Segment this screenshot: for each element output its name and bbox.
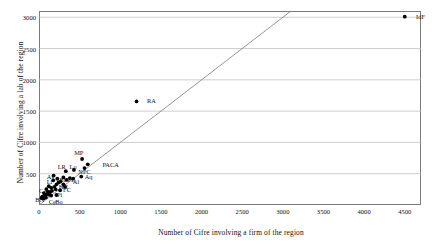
data-point-label: LR: [58, 164, 66, 170]
data-point-marker: [50, 189, 54, 193]
x-tick-label: 4500: [398, 208, 411, 215]
data-point-label: IdF: [416, 13, 425, 19]
plot-area: IdFRAMPPACANPCLoLRAqAlBrPLAsLiHNFCPiCACe…: [39, 11, 421, 205]
y-tick-label: 2000: [2, 76, 36, 83]
x-tick-label: 1000: [114, 208, 127, 215]
data-point-marker: [403, 15, 407, 19]
x-axis-title: Number of Cifre involving a firm of the …: [40, 228, 422, 237]
data-point-label: Aq: [85, 174, 93, 180]
data-point-label: Li: [47, 179, 53, 185]
x-tick-label: 2500: [236, 208, 249, 215]
data-point-label: CA: [39, 188, 48, 194]
x-tick-label: 0: [37, 208, 40, 215]
scatter-chart: Number of Cifre involving a lab of the r…: [0, 0, 436, 249]
data-point-label: FC: [63, 187, 71, 193]
x-tick-label: 4000: [358, 208, 371, 215]
y-tick-label: 1500: [2, 108, 36, 115]
data-points: [39, 11, 421, 205]
y-tick-label: 2500: [2, 45, 36, 52]
x-tick-label: 500: [75, 208, 85, 215]
x-tick-label: 2000: [195, 208, 208, 215]
data-point-label: PL: [68, 177, 75, 183]
x-axis-tick-labels: 050010001500200025003000350040004500: [39, 208, 421, 220]
data-point-marker: [86, 162, 90, 166]
data-point-label: Bo: [55, 198, 62, 204]
data-point-marker: [80, 157, 84, 161]
x-tick-label: 3000: [276, 208, 289, 215]
y-tick-label: 3000: [2, 14, 36, 21]
y-tick-label: 500: [2, 170, 36, 177]
x-tick-label: 3500: [317, 208, 330, 215]
data-point-label: PACA: [102, 161, 118, 167]
y-tick-label: 1000: [2, 139, 36, 146]
data-point-label: Lo: [70, 164, 77, 170]
data-point-label: RA: [147, 98, 156, 104]
y-axis-tick-labels: 50010001500200025003000: [0, 11, 36, 205]
data-point-label: BN: [35, 197, 44, 203]
x-tick-label: 1500: [154, 208, 167, 215]
data-point-marker: [135, 100, 139, 104]
data-point-label: MP: [74, 150, 83, 156]
